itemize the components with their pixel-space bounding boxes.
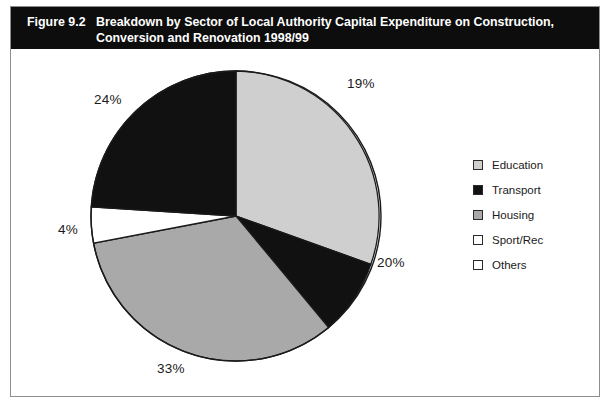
legend-swatch-sport-rec xyxy=(473,235,483,245)
legend-item-housing: Housing xyxy=(473,202,593,227)
legend-item-transport: Transport xyxy=(473,177,593,202)
figure-frame: Figure 9.2 Breakdown by Sector of Local … xyxy=(10,6,600,397)
chart-legend: Education Transport Housing Sport/Rec Ot… xyxy=(473,152,593,277)
legend-item-education: Education xyxy=(473,152,593,177)
legend-label-sport-rec: Sport/Rec xyxy=(492,234,543,246)
legend-item-others: Others xyxy=(473,252,593,277)
figure-title-bar: Figure 9.2 Breakdown by Sector of Local … xyxy=(11,7,599,49)
pie-label-sport-rec: 4% xyxy=(58,222,78,237)
legend-label-housing: Housing xyxy=(492,209,534,221)
legend-swatch-housing xyxy=(473,210,483,220)
figure-title: Breakdown by Sector of Local Authority C… xyxy=(96,15,591,46)
legend-swatch-education xyxy=(473,160,483,170)
legend-item-sport-rec: Sport/Rec xyxy=(473,227,593,252)
chart-area: 19% 20% 33% 4% 24% Education Transport H… xyxy=(11,49,599,396)
pie-label-education: 19% xyxy=(347,76,375,91)
figure-number: Figure 9.2 xyxy=(27,15,86,31)
legend-label-others: Others xyxy=(492,259,527,271)
pie-label-housing: 33% xyxy=(157,361,185,376)
pie-label-transport: 20% xyxy=(377,255,405,270)
legend-swatch-others xyxy=(473,260,483,270)
legend-label-transport: Transport xyxy=(492,184,541,196)
figure-title-line-2: Conversion and Renovation 1998/99 xyxy=(96,31,591,47)
figure-title-line-1: Breakdown by Sector of Local Authority C… xyxy=(96,15,591,31)
legend-label-education: Education xyxy=(492,159,543,171)
pie-label-others: 24% xyxy=(94,92,122,107)
legend-swatch-transport xyxy=(473,185,483,195)
